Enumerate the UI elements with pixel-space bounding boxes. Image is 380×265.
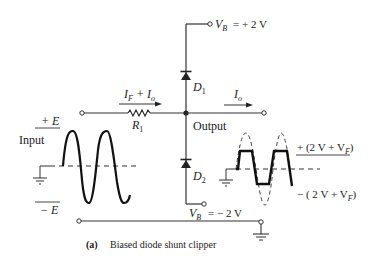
- input-wire: [80, 110, 186, 116]
- ground-icon: [253, 234, 269, 240]
- diode-d1-icon: [181, 64, 192, 113]
- d2-label: D2: [192, 169, 206, 185]
- output-label: Output: [193, 119, 227, 133]
- vb-pos-value: = + 2 V: [233, 18, 267, 30]
- resistor-r1-icon: [128, 110, 150, 116]
- vb-pos-symbol: VB: [215, 17, 227, 33]
- minus-e-label: − E: [40, 203, 59, 217]
- caption-text: Biased diode shunt clipper: [110, 239, 217, 250]
- input-sine-wave: [63, 131, 130, 203]
- clip-pos-label: + (2 V + VF): [297, 141, 354, 156]
- vb-neg-value: = − 2 V: [208, 207, 242, 219]
- input-current-label: IF + Io: [123, 87, 155, 103]
- d1-label: D1: [192, 80, 206, 96]
- plus-e-label: + E: [41, 114, 60, 128]
- clip-neg-label: − ( 2 V + VF): [297, 188, 357, 203]
- output-current-label: Io: [233, 87, 242, 103]
- input-current-arrow-icon: [119, 102, 162, 107]
- top-bias-wire: [186, 22, 212, 64]
- input-label: Input: [19, 133, 45, 147]
- caption-letter: (a): [86, 239, 98, 251]
- output-ground-icon: [219, 169, 236, 186]
- vb-neg-symbol: VB: [189, 206, 201, 222]
- output-wire: [186, 111, 266, 115]
- diode-d2-icon: [181, 113, 192, 204]
- circuit-diagram: VB = + 2 V D1 R1 IF + Io Io Output D2: [0, 0, 380, 265]
- output-current-arrow-icon: [224, 103, 253, 108]
- r1-label: R1: [131, 118, 143, 134]
- ground-return-wire: [77, 219, 263, 234]
- input-ground-icon: [33, 166, 50, 184]
